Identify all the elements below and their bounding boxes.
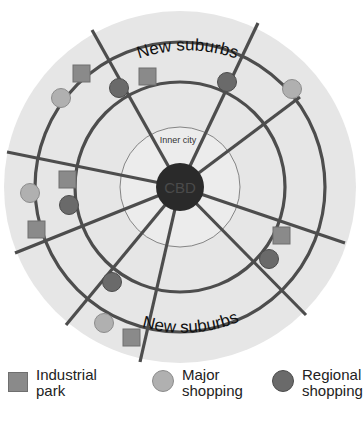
regional-shopping-marker [110,79,129,98]
regional-shopping-marker [260,250,279,269]
urban-structure-diagram: CBD Inner city New suburbs New suburbs [0,0,359,370]
legend-label-line2: shopping [302,383,363,399]
industrial-park-marker [123,329,140,346]
major-shopping-circle-icon [152,370,174,392]
industrial-park-marker [28,221,45,238]
major-shopping-marker [95,314,114,333]
legend: Industrial park Major shopping Regional … [0,362,359,425]
legend-label-line2: park [36,383,97,399]
legend-item-regional-shopping: Regional shopping [272,364,363,399]
major-shopping-marker [283,80,302,99]
legend-item-major-shopping: Major shopping [152,364,243,399]
legend-label-line2: shopping [182,383,243,399]
legend-label-line1: Industrial [36,367,97,383]
industrial-park-marker [59,171,76,188]
regional-shopping-marker [103,273,122,292]
industrial-park-square-icon [8,372,28,392]
industrial-park-marker [273,227,290,244]
industrial-park-marker [73,65,90,82]
major-shopping-marker [52,89,71,108]
regional-shopping-marker [60,196,79,215]
cbd-label: CBD [164,179,196,196]
regional-shopping-circle-icon [272,370,294,392]
industrial-park-marker [139,68,156,85]
legend-item-industrial-park: Industrial park [8,364,97,399]
legend-label-line1: Regional [302,367,363,383]
major-shopping-marker [21,184,40,203]
regional-shopping-marker [218,73,237,92]
inner-city-label: Inner city [160,135,197,145]
legend-label-line1: Major [182,367,243,383]
